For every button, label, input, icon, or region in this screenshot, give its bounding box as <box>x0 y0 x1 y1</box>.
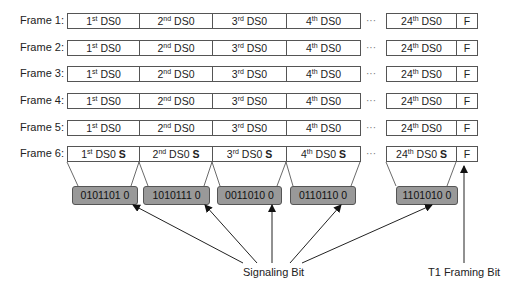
framing-bit-caption: T1 Framing Bit <box>428 266 500 278</box>
signaling-bit-caption: Signaling Bit <box>243 266 304 278</box>
connector-lines <box>0 0 517 291</box>
